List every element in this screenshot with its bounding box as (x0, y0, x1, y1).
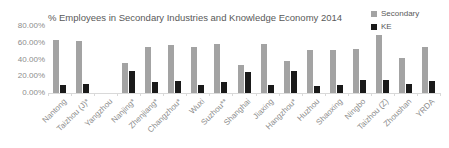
ke-bar (129, 71, 135, 93)
secondary-bar (214, 44, 220, 93)
secondary-bar (422, 47, 428, 93)
secondary-bar (284, 61, 290, 93)
ke-bar (337, 85, 343, 93)
ke-bar (245, 72, 251, 93)
y-tick-label: 60.00% (0, 39, 45, 47)
secondary-bar (145, 47, 151, 93)
ke-bar (429, 81, 435, 93)
ke-bar (360, 80, 366, 93)
secondary-bar (168, 45, 174, 93)
plot-area (48, 26, 440, 94)
ke-bar (268, 85, 274, 93)
ke-bar (383, 80, 389, 93)
legend-item-secondary: Secondary (371, 9, 419, 18)
secondary-bar (307, 50, 313, 93)
secondary-bar (261, 44, 267, 93)
legend-swatch-icon (371, 11, 377, 17)
y-tick-label: 0.00% (0, 89, 45, 97)
bar-chart: % Employees in Secondary Industries and … (0, 0, 449, 148)
ke-bar (83, 84, 89, 93)
ke-bar (291, 71, 297, 93)
secondary-bar (76, 41, 82, 93)
axis-tick (440, 93, 441, 96)
ke-bar (406, 84, 412, 93)
secondary-bar (53, 40, 59, 93)
y-tick-label: 20.00% (0, 72, 45, 80)
secondary-bar (353, 49, 359, 93)
secondary-bar (122, 63, 128, 93)
secondary-bar (376, 35, 382, 93)
ke-bar (221, 82, 227, 93)
ke-bar (175, 81, 181, 93)
y-tick-label: 80.00% (0, 22, 45, 30)
chart-title: % Employees in Secondary Industries and … (30, 12, 360, 23)
secondary-bar (399, 58, 405, 93)
secondary-bar (191, 47, 197, 93)
x-axis: NantongTaizhou (J)*YangzhouNanjing*Zhenj… (48, 95, 440, 148)
legend-label: Secondary (381, 9, 419, 18)
ke-bar (314, 86, 320, 93)
secondary-bar (238, 65, 244, 93)
y-tick-label: 40.00% (0, 56, 45, 64)
ke-bar (60, 85, 66, 93)
ke-bar (152, 82, 158, 93)
ke-bar (198, 85, 204, 93)
secondary-bar (330, 50, 336, 93)
